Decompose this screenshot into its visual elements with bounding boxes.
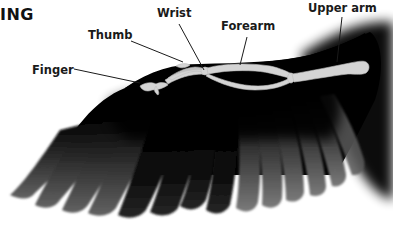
- wing-diagram: ING Wrist Thumb Forearm Upper arm Finger: [0, 0, 393, 226]
- thumb-leader-line: [131, 41, 183, 62]
- label-wrist: Wrist: [157, 6, 191, 20]
- label-upper-arm: Upper arm: [308, 1, 377, 15]
- label-forearm: Forearm: [221, 19, 275, 33]
- finger-leader-line: [74, 69, 140, 83]
- forearm-leader-line: [240, 37, 247, 65]
- wing-illustration: [0, 0, 393, 226]
- label-finger: Finger: [32, 63, 74, 77]
- diagram-title: ING: [0, 5, 34, 24]
- wrist-leader-line: [179, 24, 204, 70]
- label-thumb: Thumb: [88, 28, 132, 42]
